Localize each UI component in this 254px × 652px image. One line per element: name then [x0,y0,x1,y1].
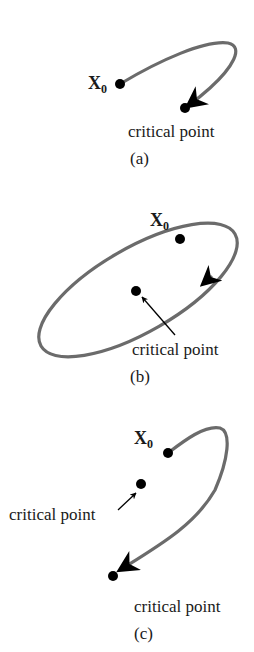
critical-points-diagram: X0 critical point (a) X0 critical point … [0,0,254,652]
critical-point-b [131,286,141,296]
x0-label-b: X0 [150,210,169,233]
start-point-b [175,234,185,244]
pointer-arrow-c [118,493,136,510]
x0-label-c: X0 [134,428,153,451]
critical-point-c-upper [136,479,146,489]
critical-point-label-a: critical point [128,122,215,141]
critical-point-label-b: critical point [132,340,219,359]
panel-c: X0 critical point critical point (c) [9,428,227,643]
pointer-arrow-b [142,297,175,335]
critical-point-c-lower [108,571,118,581]
start-point-c [163,448,173,458]
panel-b: X0 critical point (b) [20,198,254,386]
x0-label-a: X0 [88,73,107,96]
critical-point-label-c-upper: critical point [9,505,96,524]
critical-point-a [180,103,190,113]
caption-c: (c) [134,624,153,643]
start-point-a [115,79,125,89]
critical-point-label-c-lower: critical point [134,597,221,616]
trajectory-a [120,43,236,106]
orbit-direction-arrow-b [203,276,212,284]
panel-a: X0 critical point (a) [88,43,236,168]
caption-b: (b) [130,367,150,386]
trajectory-c [120,428,227,570]
caption-a: (a) [130,149,149,168]
